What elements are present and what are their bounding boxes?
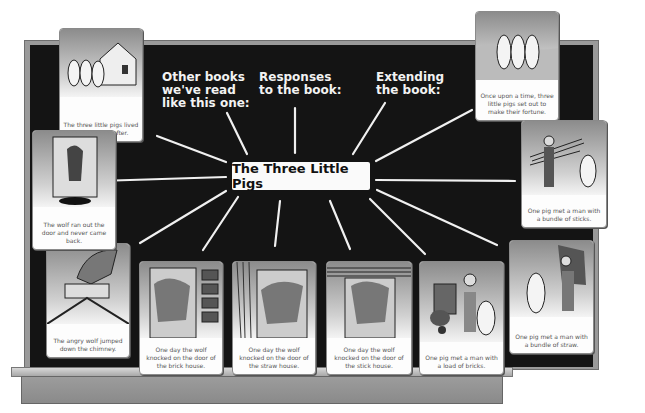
story-card-bundle-of-sticks[interactable]: One pig met a man with a bundle of stick…	[521, 120, 607, 228]
man-bricks-pig-icon	[420, 262, 503, 342]
three-pigs-house-icon	[60, 29, 142, 97]
story-card-ran-out[interactable]: The wolf ran out the door and never came…	[32, 130, 116, 250]
wolf-straw-door-icon	[233, 262, 315, 338]
story-card-happily-ever-after[interactable]: The three little pigs lived happily ever…	[59, 28, 143, 142]
heading-responses: Responses to the book:	[259, 71, 342, 97]
heading-extending: Extending the book:	[376, 71, 444, 97]
card-caption: One day the wolf knocked on the door of …	[236, 346, 312, 370]
story-card-stick-house[interactable]: One day the wolf knocked on the door of …	[326, 261, 412, 375]
wolf-stick-door-icon	[327, 262, 411, 338]
wolf-chimney-icon	[47, 244, 129, 324]
card-caption: The angry wolf jumped down the chimney.	[50, 337, 126, 353]
board-title-label: The Three Little Pigs	[232, 162, 370, 190]
card-caption: One pig met a man with a bundle of straw…	[513, 333, 590, 349]
heading-other-books: Other books we've read like this one:	[162, 71, 250, 110]
wolf-door-icon	[33, 131, 115, 207]
card-caption: The wolf ran out the door and never came…	[36, 221, 112, 245]
wolf-brick-door-icon	[140, 262, 222, 338]
card-caption: One day the wolf knocked on the door of …	[330, 346, 408, 370]
man-straw-pig-icon	[510, 241, 593, 317]
card-caption: One pig met a man with a bundle of stick…	[525, 207, 603, 223]
story-card-once-upon-a-time[interactable]: Once upon a time, three little pigs set …	[475, 11, 559, 121]
card-caption: Once upon a time, three little pigs set …	[479, 92, 555, 116]
three-pigs-icon	[476, 12, 558, 80]
man-sticks-pig-icon	[522, 121, 606, 195]
story-card-bundle-of-straw[interactable]: One pig met a man with a bundle of straw…	[509, 240, 594, 354]
card-caption: One day the wolf knocked on the door of …	[143, 346, 219, 370]
story-card-load-of-bricks[interactable]: One pig met a man with a load of bricks.	[419, 261, 504, 375]
story-card-straw-house[interactable]: One day the wolf knocked on the door of …	[232, 261, 316, 375]
card-caption: One pig met a man with a load of bricks.	[423, 354, 500, 370]
story-card-chimney[interactable]: The angry wolf jumped down the chimney.	[46, 243, 130, 358]
story-card-brick-house[interactable]: One day the wolf knocked on the door of …	[139, 261, 223, 375]
